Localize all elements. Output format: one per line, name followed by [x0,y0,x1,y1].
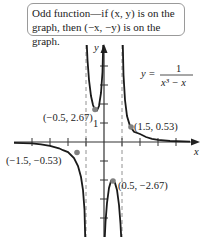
point-neg0.5-2.67 [92,107,98,113]
point-0.5-neg2.67 [110,178,116,184]
label-point-1.5-0.53: (1.5, 0.53) [134,121,178,133]
function-graph: (−0.5, 2.67) (1.5, 0.53) (−1.5, −0.53) (… [0,0,207,237]
label-point-0.5-neg2.67: (0.5, −2.67) [118,180,168,192]
y-axis-label: y [93,42,99,53]
label-point-neg1.5-neg0.53: (−1.5, −0.53) [6,155,62,167]
label-point-neg0.5-2.67: (−0.5, 2.67) [43,112,93,124]
point-neg1.5-neg0.53 [74,150,80,156]
equation-numerator: 1 [176,63,181,74]
equation-denominator: x³ − x [160,77,186,88]
equation-lhs: y = [140,68,155,79]
equation: y = 1 x³ − x [140,63,193,88]
function-curve [14,45,190,237]
point-1.5-0.53 [128,124,134,130]
x-axis-label: x [193,146,199,157]
y-tick-label-1: 1 [93,118,98,129]
x-axis-arrow-icon [191,139,200,146]
